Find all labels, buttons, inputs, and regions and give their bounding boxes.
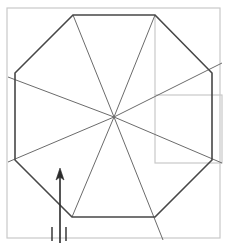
octagon-figure xyxy=(0,0,227,248)
drawing-canvas xyxy=(0,0,227,248)
canvas-background xyxy=(0,0,227,248)
